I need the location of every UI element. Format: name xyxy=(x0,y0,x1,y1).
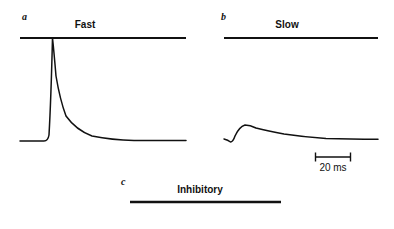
panel-label-a: a xyxy=(22,12,27,22)
panel-a-graphics xyxy=(20,38,186,141)
panel-c-title: Inhibitory xyxy=(150,185,250,195)
scale-bar xyxy=(315,153,351,162)
panel-a-title: Fast xyxy=(48,20,122,30)
panel-b-title: Slow xyxy=(252,20,322,30)
panel-label-b: b xyxy=(221,12,226,22)
panel-a-fast-trace xyxy=(20,38,186,141)
panel-b-graphics xyxy=(224,38,378,142)
scale-bar-label: 20 ms xyxy=(303,163,363,173)
panel-label-c: c xyxy=(121,177,125,187)
figure-canvas: a Fast b Slow c Inhibitory 20 ms xyxy=(0,0,394,229)
panel-b-slow-trace xyxy=(224,125,378,142)
